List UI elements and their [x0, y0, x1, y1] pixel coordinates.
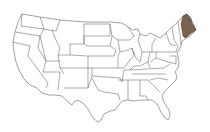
state-maine	[181, 14, 196, 38]
us-map	[0, 0, 210, 132]
